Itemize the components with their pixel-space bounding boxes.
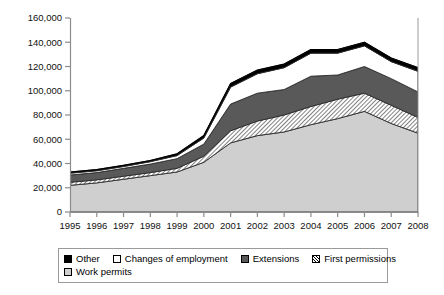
legend-row-1: Other Changes of employment Extensions F…: [64, 252, 382, 265]
x-tick-label: 2004: [300, 220, 321, 231]
x-tick-label: 2003: [274, 220, 295, 231]
y-tick-label: 160,000: [28, 12, 62, 23]
x-tick-label: 2005: [327, 220, 348, 231]
legend-swatch-changes-of-employment-icon: [113, 255, 121, 263]
chart-legend: Other Changes of employment Extensions F…: [58, 248, 388, 283]
y-tick-label: 80,000: [33, 109, 62, 120]
x-tick-label: 1999: [167, 220, 188, 231]
y-axis-ticks: [65, 18, 70, 212]
x-tick-label: 2007: [381, 220, 402, 231]
legend-swatch-first-permissions-icon: [312, 255, 320, 263]
x-tick-label: 1998: [140, 220, 161, 231]
stacked-area-chart: 020,00040,00060,00080,000100,000120,0001…: [0, 0, 444, 243]
legend-label-extensions: Extensions: [253, 252, 299, 265]
y-tick-label: 120,000: [28, 61, 62, 72]
x-tick-label: 2000: [193, 220, 214, 231]
y-tick-label: 100,000: [28, 85, 62, 96]
legend-label-work-permits: Work permits: [76, 265, 132, 278]
legend-item-other[interactable]: Other: [64, 252, 100, 265]
x-tick-label: 2001: [220, 220, 241, 231]
y-tick-label: 40,000: [33, 158, 62, 169]
x-tick-label: 2002: [247, 220, 268, 231]
legend-item-extensions[interactable]: Extensions: [241, 252, 299, 265]
legend-swatch-other-icon: [64, 255, 72, 263]
y-tick-label: 0: [57, 206, 62, 217]
x-tick-label: 1996: [86, 220, 107, 231]
legend-label-first-permissions: First permissions: [324, 252, 396, 265]
legend-label-other: Other: [76, 252, 100, 265]
legend-label-changes-of-employment: Changes of employment: [125, 252, 228, 265]
y-tick-label: 20,000: [33, 182, 62, 193]
y-tick-label: 140,000: [28, 37, 62, 48]
y-tick-label: 60,000: [33, 134, 62, 145]
x-axis-labels: 1995199619971998199920002001200220032004…: [59, 220, 428, 231]
x-tick-label: 2008: [407, 220, 428, 231]
x-tick-label: 1995: [59, 220, 80, 231]
area-series-group: [70, 42, 418, 212]
legend-item-first-permissions[interactable]: First permissions: [312, 252, 396, 265]
x-tick-label: 2006: [354, 220, 375, 231]
legend-row-2: Work permits: [64, 265, 382, 278]
y-axis-labels: 020,00040,00060,00080,000100,000120,0001…: [28, 12, 62, 217]
legend-swatch-work-permits-icon: [64, 268, 72, 276]
legend-item-work-permits[interactable]: Work permits: [64, 265, 132, 278]
x-tick-label: 1997: [113, 220, 134, 231]
legend-item-changes-of-employment[interactable]: Changes of employment: [113, 252, 228, 265]
chart-container: 020,00040,00060,00080,000100,000120,0001…: [0, 0, 444, 295]
legend-swatch-extensions-icon: [241, 255, 249, 263]
